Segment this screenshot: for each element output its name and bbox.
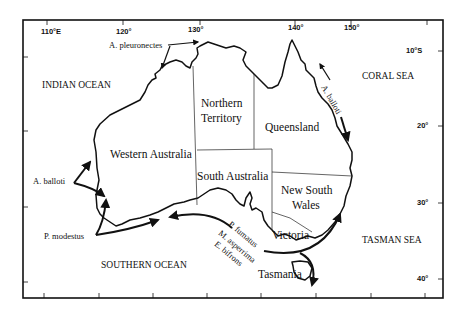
state-label-western-australia: Western Australia (110, 148, 192, 160)
arrow-a-balloti-east-north (320, 64, 330, 80)
state-label-victoria: Victoria (272, 229, 309, 241)
lat-label-40: 40° (417, 274, 428, 283)
lon-label-120: 120° (116, 27, 132, 36)
state-label-northern-territory-1: Northern (201, 97, 243, 109)
australia-species-map: 110°E 120° 130° 140° 150° 10°S 20° 30° 4… (0, 0, 455, 318)
ocean-label-tasman: TASMAN SEA (362, 235, 422, 245)
lon-label-140: 140° (288, 23, 304, 32)
ocean-label-indian: INDIAN OCEAN (42, 80, 111, 90)
state-label-northern-territory-2: Territory (201, 112, 242, 125)
lat-label-10s: 10°S (406, 46, 422, 55)
state-label-nsw-2: Wales (292, 199, 320, 211)
state-label-tasmania: Tasmania (258, 268, 302, 280)
lon-label-110: 110°E (41, 27, 61, 36)
ocean-label-southern: SOUTHERN OCEAN (101, 260, 187, 270)
lon-label-130: 130° (188, 25, 204, 34)
arrow-a-balloti-west-north (74, 162, 90, 183)
distribution-arrows (74, 42, 348, 285)
species-label-a-balloti-west: A. balloti (33, 176, 66, 186)
lon-label-150: 150° (344, 23, 360, 32)
ocean-label-coral: CORAL SEA (362, 71, 414, 81)
species-label-a-pleuronectes: A. pleuronectes (109, 40, 162, 50)
arrow-p-fumatus-west (170, 214, 232, 228)
lat-label-20: 20° (417, 121, 428, 130)
arrow-a-balloti-west-south (74, 183, 104, 196)
arrow-a-balloti-east-south (341, 117, 348, 140)
species-label-p-modestus: P. modestus (44, 231, 84, 241)
state-label-queensland: Queensland (265, 121, 320, 133)
state-label-nsw-1: New South (281, 184, 333, 196)
arrow-a-pleuronectes-east (168, 42, 198, 45)
state-label-south-australia: South Australia (197, 170, 268, 182)
lat-label-30: 30° (417, 198, 428, 207)
